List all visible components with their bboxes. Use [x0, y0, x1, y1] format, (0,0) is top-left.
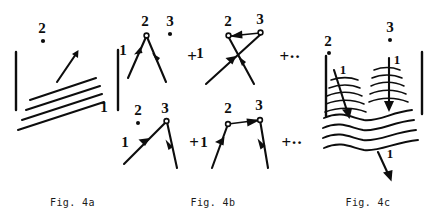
vertex-circle-2 [226, 122, 231, 127]
vertex-dot-2 [327, 51, 331, 55]
caption-fig-4c: Fig. 4c [300, 197, 436, 208]
figure-panel-4b: 3 2 1 + 2 3 [118, 0, 308, 216]
caption-fig-4b: Fig. 4b [118, 197, 308, 208]
arrowhead-right [384, 101, 394, 112]
vertex-circle-3 [258, 118, 263, 123]
wavefront-lines [18, 78, 104, 130]
spectator-dot-2 [136, 121, 140, 125]
incoming-label-1: 1 [119, 42, 127, 58]
left-vertex-label-2: 2 [224, 100, 232, 116]
diagram-4b-d4: 2 3 1 [200, 97, 268, 168]
spectator-label-3: 3 [166, 13, 174, 29]
arrow-1-incoming [57, 50, 79, 82]
line-label-1-bottom: 1 [387, 146, 394, 161]
right-vertex-label-3: 3 [256, 11, 264, 27]
vertex-label-2: 2 [38, 20, 46, 36]
diagram-4b-d1: 3 2 1 [119, 13, 174, 82]
leg-left-ascending [212, 124, 228, 168]
vertex-label-3: 3 [386, 19, 394, 35]
spectator-label-2: 2 [134, 102, 142, 118]
fig-4c-drawing: 2 3 [300, 0, 436, 190]
fig-4b-drawing: 3 2 1 + 2 3 [118, 0, 308, 190]
arrow-1-incoming-left: 1 [334, 62, 352, 119]
incoming-label-1: 1 [200, 134, 208, 150]
arrowhead-left [342, 109, 352, 120]
incoming-label-1: 1 [121, 134, 129, 150]
diagram-4b-d2: 2 3 1 [196, 11, 264, 84]
vertex-dot-2 [41, 39, 45, 43]
arrowhead-exchange [230, 31, 243, 39]
vertex-label-2: 2 [324, 33, 332, 49]
apex-circle-3 [164, 119, 169, 124]
left-vertex-label-2: 2 [224, 13, 232, 29]
operator-ellipsis-top: +·· [279, 47, 300, 66]
arrowhead-cross-a [226, 56, 237, 65]
wavefront-group-outgoing [323, 110, 418, 150]
arrowhead-bottom [383, 170, 393, 182]
vertex-circle-2 [226, 33, 231, 38]
apex-label-2: 2 [141, 13, 149, 29]
diagram-4b-d3: 2 3 1 [121, 100, 177, 168]
vertex-circle-3 [258, 30, 263, 35]
arrowhead-ascending [139, 138, 151, 146]
figure-panel-4c: 2 3 [300, 0, 436, 216]
apex-label-3: 3 [161, 100, 169, 116]
arrow-1-outgoing-bottom: 1 [378, 146, 393, 182]
incoming-label-1: 1 [196, 45, 204, 61]
operator-plus-bottom: + [189, 133, 199, 152]
apex-circle-2 [144, 33, 149, 38]
figure-page: 2 1 Fig. 4a 3 [0, 0, 436, 216]
spectator-dot-3 [168, 32, 172, 36]
line-label-1: 1 [100, 99, 108, 115]
right-vertex-label-3: 3 [255, 97, 263, 113]
arrowhead-cross-b [238, 56, 246, 66]
line-label-1-left: 1 [340, 62, 347, 77]
leg-left [128, 37, 146, 78]
line-label-1-right: 1 [394, 52, 401, 67]
vertex-dot-3 [388, 38, 392, 42]
